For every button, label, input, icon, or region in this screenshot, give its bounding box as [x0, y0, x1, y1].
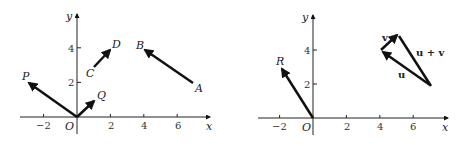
y-tick-4: 4 — [304, 45, 310, 56]
x-tick-6: 6 — [175, 120, 181, 131]
vector-op — [29, 83, 77, 117]
vector-ab — [145, 50, 193, 83]
x-tick-neg2: −2 — [272, 121, 287, 132]
vector-diagrams: −2 2 4 6 2 4 y x O P Q C D A B −2 2 4 6 … — [0, 0, 458, 150]
label-v: v — [381, 32, 389, 43]
x-tick-4: 4 — [377, 121, 383, 132]
x-tick-6: 6 — [410, 121, 416, 132]
x-axis-label: x — [442, 121, 449, 134]
x-tick-4: 4 — [141, 120, 147, 131]
label-u: u — [398, 69, 405, 80]
label-d: D — [111, 38, 121, 51]
label-c: C — [86, 67, 95, 80]
label-a: A — [194, 82, 203, 95]
label-q: Q — [97, 89, 106, 102]
y-tick-2: 2 — [68, 77, 74, 88]
label-b: B — [135, 39, 144, 52]
label-p: P — [21, 70, 30, 83]
origin-label: O — [302, 121, 311, 134]
y-axis-label: y — [65, 10, 73, 23]
label-u-plus-v: u + v — [416, 47, 446, 58]
left-plot: −2 2 4 6 2 4 y x O P Q C D A B — [20, 10, 213, 134]
x-tick-2: 2 — [344, 121, 350, 132]
origin-label: O — [65, 120, 74, 133]
x-tick-neg2: −2 — [36, 120, 51, 131]
y-tick-4: 4 — [68, 43, 74, 54]
right-plot: −2 2 4 6 2 4 y x O R u v u + v — [258, 11, 449, 135]
x-tick-2: 2 — [108, 120, 114, 131]
vector-oq — [77, 101, 94, 117]
vector-cd — [94, 50, 110, 67]
x-axis-label: x — [206, 120, 213, 133]
vector-or — [282, 69, 313, 118]
y-axis-label: y — [301, 11, 309, 24]
label-r: R — [275, 55, 284, 68]
y-tick-2: 2 — [304, 79, 310, 90]
